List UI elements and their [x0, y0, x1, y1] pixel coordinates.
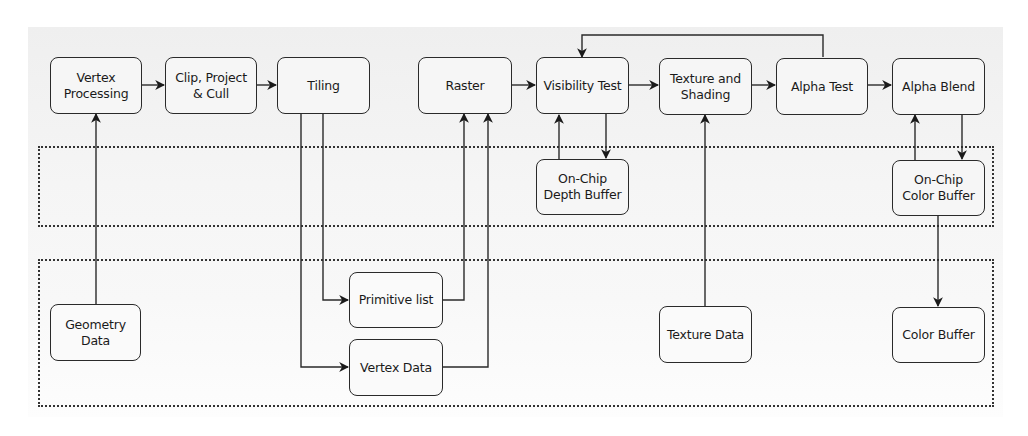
- node-tiling: Tiling: [277, 57, 370, 114]
- node-texture-data: Texture Data: [659, 306, 752, 363]
- arrow-vertexdata-to-raster: [443, 114, 488, 367]
- arrow-primitive-to-raster: [443, 114, 464, 300]
- node-texture-shading: Texture and Shading: [659, 58, 752, 115]
- node-vertex-data: Vertex Data: [349, 339, 443, 396]
- arrow-tiling-to-primitive: [323, 113, 348, 300]
- node-color-buffer: Color Buffer: [892, 307, 985, 363]
- node-raster: Raster: [418, 57, 512, 114]
- arrow-alphatest-feedback: [582, 35, 823, 57]
- node-geometry-data: Geometry Data: [50, 304, 141, 361]
- node-vertex-processing: Vertex Processing: [50, 57, 142, 114]
- node-visibility-test: Visibility Test: [536, 57, 629, 114]
- node-primitive-list: Primitive list: [349, 272, 443, 328]
- node-onchip-depth-buffer: On-Chip Depth Buffer: [536, 159, 629, 215]
- node-alpha-test: Alpha Test: [776, 58, 868, 115]
- pipeline-diagram: Vertex Processing Clip, Project & Cull T…: [0, 0, 1028, 436]
- node-clip-project-cull: Clip, Project & Cull: [165, 57, 257, 114]
- node-onchip-color-buffer: On-Chip Color Buffer: [892, 160, 985, 216]
- node-alpha-blend: Alpha Blend: [892, 58, 985, 115]
- arrow-tiling-to-vertexdata: [301, 113, 348, 367]
- connector-arrows: [0, 0, 1028, 436]
